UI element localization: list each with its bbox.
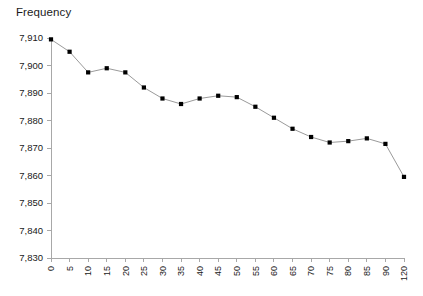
y-tick-label: 7,880 (19, 115, 43, 126)
x-tick-label: 40 (195, 266, 205, 276)
data-point-marker (67, 50, 71, 54)
data-point-marker (160, 96, 164, 100)
x-tick-label: 120 (399, 266, 409, 281)
data-point-marker (253, 105, 257, 109)
x-tick-label: 65 (288, 266, 298, 276)
x-tick-label: 70 (306, 266, 316, 276)
data-point-marker (142, 85, 146, 89)
x-tick-label: 55 (251, 266, 261, 276)
y-tick-label: 7,840 (19, 225, 43, 236)
series-group (49, 37, 406, 179)
data-point-marker (198, 96, 202, 100)
y-axis-group: 7,9107,9007,8907,8807,8707,8607,8507,840… (19, 32, 51, 263)
data-point-marker (179, 102, 183, 106)
data-point-marker (365, 136, 369, 140)
x-tick-label: 25 (139, 266, 149, 276)
y-tick-label: 7,830 (19, 252, 43, 263)
y-tick-label: 7,900 (19, 60, 43, 71)
data-point-marker (216, 94, 220, 98)
x-tick-label: 80 (343, 266, 353, 276)
x-tick-label: 15 (102, 266, 112, 276)
y-tick-label: 7,860 (19, 170, 43, 181)
x-tick-label: 0 (46, 266, 56, 271)
x-tick-label: 60 (269, 266, 279, 276)
data-point-marker (346, 139, 350, 143)
x-tick-label: 35 (176, 266, 186, 276)
x-tick-label: 5 (65, 266, 75, 271)
y-tick-label: 7,890 (19, 87, 43, 98)
data-point-marker (49, 37, 53, 41)
plot-area: 7,9107,9007,8907,8807,8707,8607,8507,840… (0, 0, 423, 296)
x-tick-label: 20 (121, 266, 131, 276)
data-point-marker (309, 135, 313, 139)
x-tick-label: 90 (381, 266, 391, 276)
y-tick-label: 7,910 (19, 32, 43, 43)
data-point-marker (235, 95, 239, 99)
y-tick-label: 7,850 (19, 197, 43, 208)
data-point-marker (328, 140, 332, 144)
x-tick-label: 10 (83, 266, 93, 276)
data-point-marker (290, 127, 294, 131)
x-tick-label: 30 (158, 266, 168, 276)
data-point-marker (105, 66, 109, 70)
data-point-marker (86, 70, 90, 74)
data-point-marker (272, 116, 276, 120)
frequency-line-chart: Frequency 7,9107,9007,8907,8807,8707,860… (0, 0, 423, 296)
x-axis-group: 051015202530354045505560657075808590120 (46, 258, 409, 281)
series-line (51, 39, 404, 177)
y-tick-label: 7,870 (19, 142, 43, 153)
data-point-marker (402, 175, 406, 179)
data-point-marker (383, 142, 387, 146)
data-point-marker (123, 70, 127, 74)
x-tick-label: 50 (232, 266, 242, 276)
x-tick-label: 45 (213, 266, 223, 276)
x-tick-label: 85 (362, 266, 372, 276)
x-tick-label: 75 (325, 266, 335, 276)
